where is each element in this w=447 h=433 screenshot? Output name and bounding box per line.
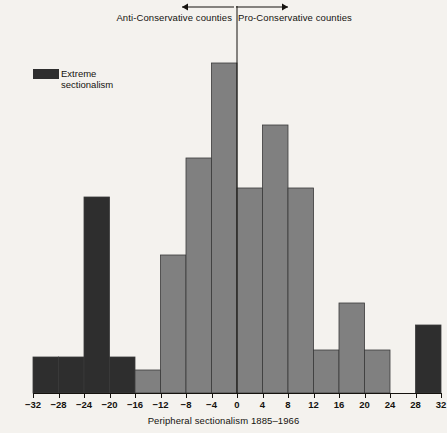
x-axis-tick	[84, 393, 85, 398]
x-axis-tick	[390, 393, 391, 398]
x-axis-tick	[212, 393, 213, 398]
x-axis-tick-label: −16	[122, 399, 148, 410]
x-axis-tick	[135, 393, 136, 398]
x-axis-tick	[186, 393, 187, 398]
x-axis-tick-label: 0	[224, 399, 250, 410]
x-axis-tick	[59, 393, 60, 398]
x-axis-tick-label: 8	[275, 399, 301, 410]
histogram-bar	[339, 303, 365, 393]
x-axis-tick	[237, 393, 238, 398]
histogram-bar	[186, 158, 212, 393]
histogram-bar	[237, 188, 263, 393]
x-axis-tick	[161, 393, 162, 398]
histogram-bar	[416, 325, 442, 393]
histogram-bar	[365, 350, 391, 393]
x-axis-tick-label: 12	[301, 399, 327, 410]
x-axis-tick-label: −8	[173, 399, 199, 410]
histogram-bar	[314, 350, 340, 393]
x-axis-tick	[365, 393, 366, 398]
histogram-bar	[84, 197, 110, 393]
histogram-bar	[59, 357, 85, 393]
x-axis-tick	[288, 393, 289, 398]
histogram-bar	[135, 370, 161, 393]
x-axis-tick-label: 4	[250, 399, 276, 410]
x-axis-tick-label: 28	[403, 399, 429, 410]
x-axis-label: Peripheral sectionalism 1885–1966	[0, 415, 447, 426]
x-axis-tick	[339, 393, 340, 398]
histogram-bar	[288, 188, 314, 393]
x-axis-tick	[314, 393, 315, 398]
chart-figure: Anti-Conservative counties Pro-Conservat…	[0, 0, 447, 433]
x-axis-tick-label: −24	[71, 399, 97, 410]
histogram-plot	[0, 0, 447, 400]
x-axis-tick-label: 32	[428, 399, 447, 410]
histogram-bar	[33, 357, 59, 393]
x-axis-tick	[33, 393, 34, 398]
x-axis-tick	[263, 393, 264, 398]
x-axis-tick-label: −20	[97, 399, 123, 410]
histogram-bar	[263, 125, 289, 393]
x-axis-tick-label: 20	[352, 399, 378, 410]
histogram-bar	[161, 255, 187, 393]
x-axis-tick-label: 24	[377, 399, 403, 410]
x-axis-tick-label: −32	[20, 399, 46, 410]
histogram-bar	[212, 63, 238, 393]
x-axis-tick	[441, 393, 442, 398]
x-axis-tick-label: −28	[46, 399, 72, 410]
x-axis-tick	[110, 393, 111, 398]
x-axis-tick	[416, 393, 417, 398]
x-axis-tick-label: 16	[326, 399, 352, 410]
x-axis-tick-label: −12	[148, 399, 174, 410]
x-axis-tick-label: −4	[199, 399, 225, 410]
histogram-bar	[110, 357, 136, 393]
